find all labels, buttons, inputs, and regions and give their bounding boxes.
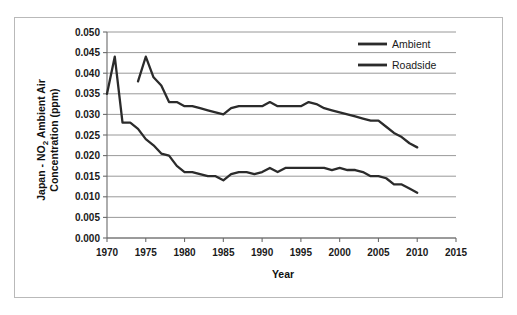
y-axis-title-line2: Concentration (ppm): [48, 88, 60, 191]
y-tick-label: 0.000: [75, 233, 100, 244]
legend-label-roadside: Roadside: [392, 59, 437, 71]
y-tick-label: 0.030: [75, 109, 100, 120]
y-tick-label: 0.050: [75, 27, 100, 38]
x-axis-ticks: [107, 238, 456, 242]
y-axis-title: Japan - NO2 Ambient Air Concentration (p…: [35, 79, 60, 201]
line-chart: 1970197519801985199019952000200520102015…: [0, 0, 517, 315]
series-line-roadside: [138, 57, 417, 148]
x-tick-label: 1970: [96, 247, 119, 258]
legend-label-ambient: Ambient: [392, 38, 431, 50]
y-tick-label: 0.035: [75, 88, 100, 99]
x-tick-label: 2005: [367, 247, 390, 258]
y-tick-label: 0.010: [75, 191, 100, 202]
y-tick-label: 0.015: [75, 171, 100, 182]
chart-legend: AmbientRoadside: [358, 38, 437, 71]
y-axis-title-part2: Ambient Air: [35, 79, 47, 141]
y-tick-label: 0.005: [75, 212, 100, 223]
x-tick-label: 2010: [406, 247, 429, 258]
y-tick-label: 0.025: [75, 130, 100, 141]
y-tick-labels: 0.0000.0050.0100.0150.0200.0250.0300.035…: [75, 27, 100, 244]
x-tick-label: 1980: [173, 247, 196, 258]
x-tick-label: 1995: [290, 247, 313, 258]
x-tick-labels: 1970197519801985199019952000200520102015: [96, 247, 468, 258]
y-tick-label: 0.040: [75, 68, 100, 79]
x-axis-title: Year: [272, 268, 294, 280]
x-tick-label: 2015: [445, 247, 468, 258]
y-axis-title-part1: Japan - NO: [35, 145, 47, 200]
x-tick-label: 1990: [251, 247, 274, 258]
y-tick-label: 0.020: [75, 150, 100, 161]
data-series: [107, 57, 417, 193]
x-tick-label: 1985: [212, 247, 235, 258]
figure-root: 1970197519801985199019952000200520102015…: [0, 0, 517, 315]
y-tick-label: 0.045: [75, 47, 100, 58]
x-tick-label: 1975: [135, 247, 158, 258]
y-axis-ticks: [103, 32, 107, 238]
x-tick-label: 2000: [329, 247, 352, 258]
